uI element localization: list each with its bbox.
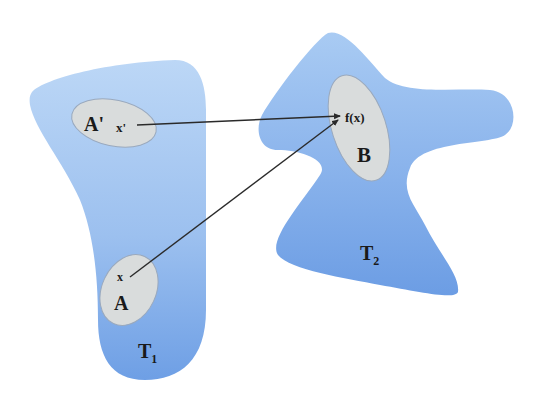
label-fx: f(x) (345, 110, 365, 125)
label-b: B (357, 143, 371, 167)
label-x-prime: x' (116, 120, 126, 135)
topology-mapping-diagram: A' x' x A f(x) B T1 T2 (0, 0, 539, 402)
label-x: x (117, 270, 123, 284)
label-a: A (114, 292, 129, 314)
label-a-prime: A' (84, 113, 104, 135)
